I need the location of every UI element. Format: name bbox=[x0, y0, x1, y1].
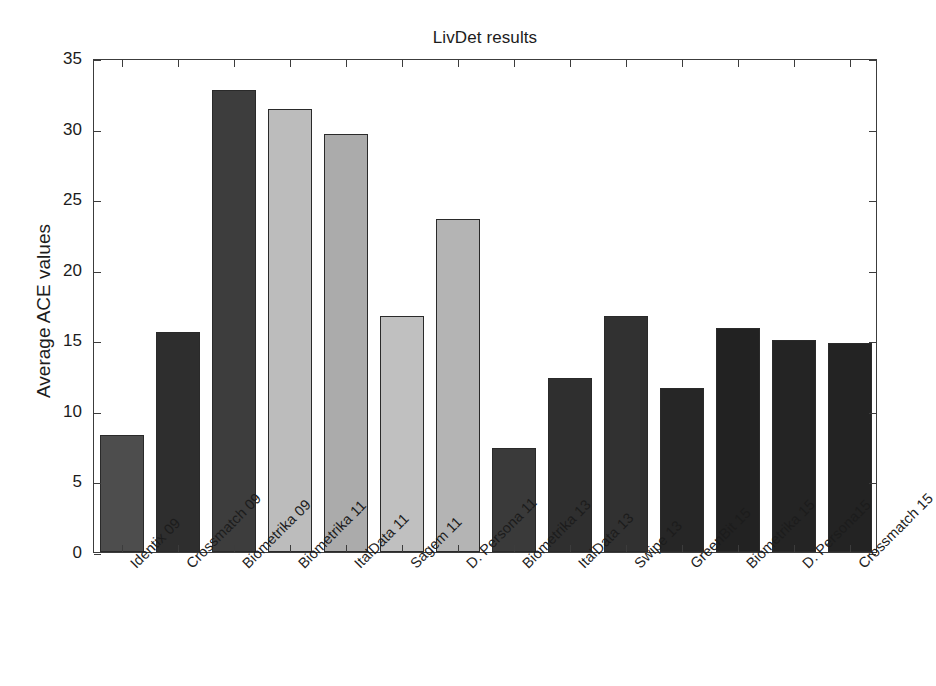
y-tick-mark bbox=[94, 413, 101, 414]
y-axis-title: Average ACE values bbox=[33, 101, 55, 521]
chart-title: LivDet results bbox=[93, 28, 877, 48]
x-tick-mark bbox=[570, 545, 571, 552]
x-tick-mark bbox=[402, 545, 403, 552]
y-tick-mark bbox=[94, 554, 101, 555]
y-tick-label: 15 bbox=[12, 332, 82, 349]
x-tick-mark bbox=[626, 545, 627, 552]
y-tick-label: 0 bbox=[12, 544, 82, 561]
bar bbox=[100, 435, 145, 552]
x-tick-mark-top bbox=[850, 60, 851, 67]
x-tick-mark-top bbox=[122, 60, 123, 67]
x-tick-mark bbox=[794, 545, 795, 552]
x-tick-mark bbox=[234, 545, 235, 552]
x-tick-mark-top bbox=[178, 60, 179, 67]
y-tick-mark bbox=[94, 342, 101, 343]
plot-area bbox=[93, 59, 877, 553]
x-tick-mark-top bbox=[738, 60, 739, 67]
x-tick-mark-top bbox=[290, 60, 291, 67]
y-tick-mark-right bbox=[869, 201, 876, 202]
y-tick-mark-right bbox=[869, 272, 876, 273]
y-tick-mark bbox=[94, 60, 101, 61]
y-tick-mark-right bbox=[869, 131, 876, 132]
bar bbox=[436, 219, 481, 552]
x-tick-mark-top bbox=[402, 60, 403, 67]
x-tick-mark bbox=[458, 545, 459, 552]
x-tick-mark bbox=[346, 545, 347, 552]
y-tick-mark-right bbox=[869, 342, 876, 343]
x-tick-mark bbox=[122, 545, 123, 552]
x-tick-mark bbox=[178, 545, 179, 552]
y-tick-mark bbox=[94, 483, 101, 484]
x-tick-mark bbox=[290, 545, 291, 552]
y-tick-mark-right bbox=[869, 413, 876, 414]
x-tick-mark-top bbox=[514, 60, 515, 67]
x-tick-mark-top bbox=[346, 60, 347, 67]
x-tick-mark bbox=[682, 545, 683, 552]
bar bbox=[324, 134, 369, 552]
x-tick-mark-top bbox=[570, 60, 571, 67]
y-tick-label: 5 bbox=[12, 473, 82, 490]
y-tick-label: 25 bbox=[12, 191, 82, 208]
x-tick-mark bbox=[514, 545, 515, 552]
bar bbox=[268, 109, 313, 552]
x-tick-mark-top bbox=[682, 60, 683, 67]
x-tick-mark-top bbox=[626, 60, 627, 67]
y-tick-label: 20 bbox=[12, 262, 82, 279]
bar bbox=[212, 90, 257, 552]
bar bbox=[156, 332, 201, 552]
x-tick-mark bbox=[738, 545, 739, 552]
y-tick-label: 30 bbox=[12, 121, 82, 138]
y-tick-mark bbox=[94, 201, 101, 202]
x-tick-mark-top bbox=[458, 60, 459, 67]
y-tick-label: 10 bbox=[12, 403, 82, 420]
y-tick-mark bbox=[94, 131, 101, 132]
x-tick-mark-top bbox=[234, 60, 235, 67]
x-tick-mark-top bbox=[794, 60, 795, 67]
y-tick-mark bbox=[94, 272, 101, 273]
y-tick-mark-right bbox=[869, 483, 876, 484]
y-tick-mark-right bbox=[869, 60, 876, 61]
y-tick-label: 35 bbox=[12, 50, 82, 67]
x-tick-mark bbox=[850, 545, 851, 552]
